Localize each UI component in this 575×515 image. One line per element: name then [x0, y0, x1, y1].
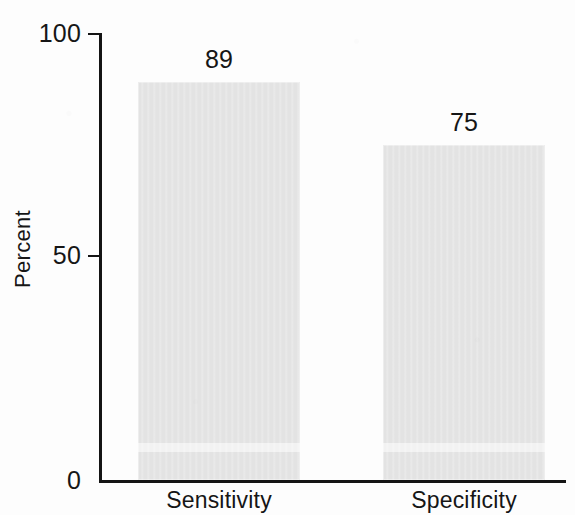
y-axis-line — [99, 33, 102, 483]
y-axis-tick-label-100: 100 — [11, 21, 81, 46]
y-axis-tick-100 — [88, 33, 100, 35]
y-axis-title: Percent — [12, 194, 34, 304]
x-axis-line — [99, 480, 566, 483]
x-axis-category-label-sensitivity: Sensitivity — [118, 489, 320, 512]
bar-sensitivity — [138, 82, 300, 480]
bar-specificity — [383, 145, 545, 480]
bar-chart-figure: 100 50 0 Percent 89 75 Sensitivity Speci… — [0, 0, 575, 515]
x-axis-category-label-specificity: Specificity — [363, 489, 565, 512]
y-axis-tick-50 — [88, 255, 100, 257]
bar-value-label-sensitivity: 89 — [138, 47, 300, 72]
y-axis-tick-label-0: 0 — [11, 468, 81, 493]
bar-value-label-specificity: 75 — [383, 110, 545, 135]
